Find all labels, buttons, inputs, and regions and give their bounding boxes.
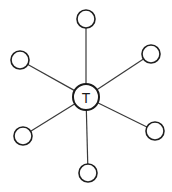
leaf-node-bottom	[79, 164, 97, 182]
leaf-node-lower-right	[146, 122, 164, 140]
leaf-node-upper-right	[142, 45, 160, 63]
star-diagram: T	[0, 0, 172, 192]
edge-upper-left	[28, 64, 75, 90]
leaf-node-lower-left	[14, 127, 32, 145]
leaf-node-upper-left	[11, 51, 29, 69]
hub-node: T	[73, 84, 99, 110]
edge-bottom	[86, 110, 87, 164]
hub-label: T	[82, 90, 91, 106]
edge-lower-right	[98, 103, 147, 127]
edge-lower-left	[31, 104, 75, 131]
edge-upper-right	[97, 59, 144, 90]
leaf-node-top	[77, 10, 95, 28]
